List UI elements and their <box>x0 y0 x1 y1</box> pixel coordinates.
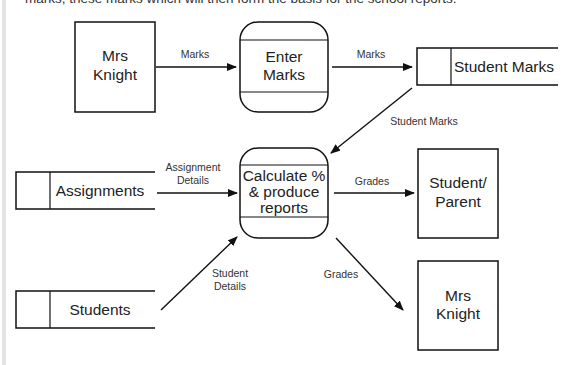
process-label: Calculate % <box>243 167 326 184</box>
entity-label: Knight <box>436 305 481 322</box>
entity-mrs-knight-top: Mrs Knight <box>75 22 155 112</box>
entity-label: Mrs <box>445 287 471 304</box>
flow-student-marks: Student Marks <box>331 88 458 153</box>
flow-label: Marks <box>181 48 210 60</box>
process-enter-marks: Enter Marks <box>240 22 328 112</box>
store-student-marks: Student Marks <box>417 48 558 85</box>
flow-label: Details <box>214 280 246 292</box>
flow-grades-1: Grades <box>334 175 414 193</box>
store-assignments: Assignments <box>16 172 155 209</box>
flow-label: Marks <box>357 48 386 60</box>
flow-student-details: Student Details <box>161 237 248 310</box>
flow-marks-2: Marks <box>332 48 412 67</box>
store-label: Student Marks <box>454 58 554 75</box>
store-students: Students <box>16 291 155 328</box>
flow-label: Student Marks <box>390 115 458 127</box>
process-calculate: Calculate % & produce reports <box>240 148 328 238</box>
entity-label: Mrs <box>102 47 128 64</box>
flow-marks-1: Marks <box>156 48 236 67</box>
process-label: reports <box>260 199 308 216</box>
entity-mrs-knight-bottom: Mrs Knight <box>418 261 498 350</box>
process-label: & produce <box>249 183 320 200</box>
flow-assignment-details: Assignment Details <box>157 161 237 193</box>
entity-label: Parent <box>435 193 481 210</box>
store-label: Students <box>69 301 130 318</box>
flow-label: Details <box>177 174 209 186</box>
flow-label: Grades <box>355 175 389 187</box>
flow-grades-2: Grades <box>324 238 403 310</box>
flow-label: Assignment <box>166 161 221 173</box>
flow-label: Grades <box>324 268 358 280</box>
entity-label: Student/ <box>429 174 487 191</box>
data-flow-diagram: Mrs Knight Enter Marks Student Marks Mar… <box>0 0 569 365</box>
store-label: Assignments <box>56 182 145 199</box>
process-label: Enter <box>265 48 302 65</box>
entity-label: Knight <box>93 66 138 83</box>
process-label: Marks <box>263 66 305 83</box>
flow-label: Student <box>212 267 248 279</box>
entity-student-parent: Student/ Parent <box>418 149 498 238</box>
